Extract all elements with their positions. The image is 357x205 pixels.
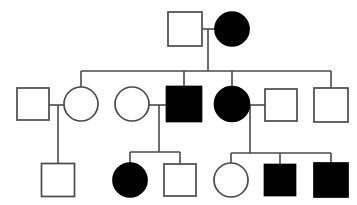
individual-II-4-male-affected[interactable] bbox=[167, 87, 202, 122]
individual-II-7-male-unaffected[interactable] bbox=[314, 88, 348, 122]
pedigree-canvas bbox=[0, 0, 357, 205]
individual-III-2-female-affected[interactable] bbox=[113, 163, 147, 197]
pedigree-chart bbox=[0, 0, 357, 205]
individual-II-2-female-unaffected[interactable] bbox=[64, 87, 98, 121]
individual-III-4-female-unaffected[interactable] bbox=[214, 163, 248, 197]
individual-III-5-male-affected[interactable] bbox=[265, 165, 296, 196]
individual-II-1-male-unaffected[interactable] bbox=[17, 88, 49, 120]
individual-III-6-male-affected[interactable] bbox=[314, 163, 348, 197]
individual-II-3-female-unaffected[interactable] bbox=[115, 87, 149, 121]
individual-I-1-male-unaffected[interactable] bbox=[168, 12, 202, 46]
individual-II-5-female-affected[interactable] bbox=[215, 87, 250, 122]
individual-I-2-female-affected[interactable] bbox=[215, 12, 249, 46]
individual-III-3-male-unaffected[interactable] bbox=[164, 164, 196, 196]
individual-II-6-male-unaffected[interactable] bbox=[265, 89, 297, 121]
individual-III-1-male-unaffected[interactable] bbox=[42, 164, 75, 197]
